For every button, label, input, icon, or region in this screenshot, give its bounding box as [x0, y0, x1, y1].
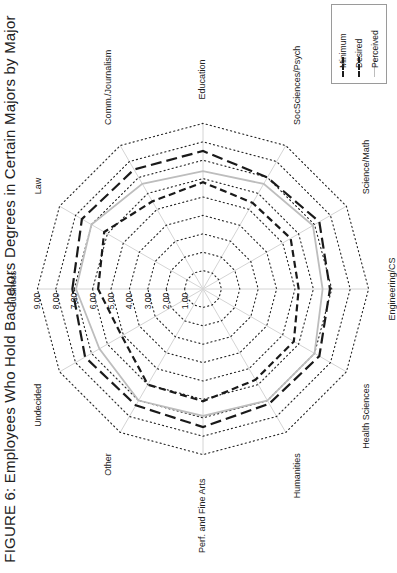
tick-label: 6.00 [88, 292, 98, 309]
tick-label: 8.00 [51, 292, 61, 309]
legend-item-perceived: Perceived [367, 5, 383, 83]
spoke-line [203, 289, 286, 432]
axis-label-other: Other [103, 453, 113, 476]
axis-label-perf-and-fine-arts: Perf. and Fine Arts [197, 478, 207, 553]
axis-label-socsciences-psych: SocSciences/Psych [292, 46, 302, 125]
tick-label: 9.00 [32, 292, 42, 309]
legend-label-perceived: Perceived [368, 4, 382, 68]
tick-label: 7.00 [69, 292, 79, 309]
radar-tick-labels: 1.002.003.004.005.006.007.008.009.00 [32, 292, 189, 309]
legend-label-minimum: Minimum [336, 4, 350, 68]
axis-label-science-math: Science/Math [362, 140, 372, 195]
axis-label-engineering-cs: Engineering/CS [387, 257, 397, 320]
axis-label-humanities: Humanities [292, 453, 302, 499]
spoke-line [203, 289, 346, 372]
axis-label-comm-journalism: Comm./Journalism [103, 50, 113, 125]
tick-label: 5.00 [106, 292, 116, 309]
tick-label: 3.00 [143, 292, 153, 309]
axis-label-undecided: Undecided [33, 384, 43, 427]
legend-label-desired: Desired [352, 4, 366, 68]
legend-item-minimum: Minimum [335, 5, 351, 83]
radar-chart: 1.002.003.004.005.006.007.008.009.00 Bus… [0, 0, 397, 573]
radar-axis-labels: BusinessLawComm./JournalismEducationSocS… [8, 46, 397, 553]
tick-label: 1.00 [180, 292, 190, 309]
axis-label-education: Education [197, 59, 207, 99]
legend-item-desired: Desired [351, 5, 367, 83]
tick-label: 2.00 [161, 292, 171, 309]
spoke-line [120, 289, 203, 432]
tick-label: 4.00 [124, 292, 134, 309]
axis-label-business: Business [8, 270, 18, 307]
axis-label-law: Law [33, 177, 43, 194]
axis-label-health-sciences: Health Sciences [362, 383, 372, 449]
chart-legend: Minimum Desired Perceived [331, 4, 387, 84]
spoke-line [120, 146, 203, 289]
spoke-line [203, 206, 346, 289]
radar-spokes [37, 123, 368, 454]
